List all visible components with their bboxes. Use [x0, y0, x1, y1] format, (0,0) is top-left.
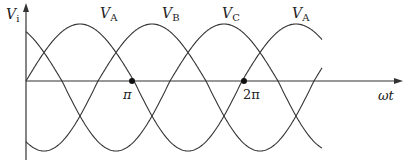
waveform-vb [26, 24, 322, 151]
waveform-label-vc: VC [222, 5, 240, 23]
tick-label-pi: π [122, 87, 132, 102]
waveform-label-va-2: VA [292, 5, 310, 23]
point-2pi [241, 78, 247, 84]
tick-label-2pi: 2π [243, 87, 260, 102]
waveform-label-vb: VB [162, 5, 179, 23]
x-axis-label: ωt [378, 88, 395, 103]
three-phase-waveform-diagram: π 2π Vi ωt VA VB VC VA [0, 0, 406, 165]
point-pi [129, 78, 135, 84]
x-axis-arrow [394, 78, 403, 84]
y-axis-label: Vi [6, 6, 19, 24]
waveform-curves [26, 24, 322, 151]
waveform-label-va: VA [100, 5, 118, 23]
y-axis-arrow [23, 3, 29, 12]
